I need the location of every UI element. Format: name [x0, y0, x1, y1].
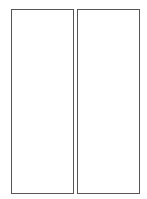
left-panel: [11, 9, 74, 194]
right-panel: [77, 9, 140, 194]
